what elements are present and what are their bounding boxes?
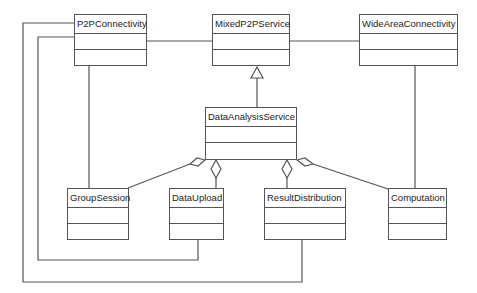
class-dataupload[interactable]: DataUpload bbox=[169, 188, 224, 240]
class-mixedp2pservice[interactable]: MixedP2PService bbox=[212, 14, 290, 66]
class-p2pconnectivity[interactable]: P2PConnectivity bbox=[74, 14, 147, 66]
class-name: GroupSession bbox=[68, 189, 128, 208]
class-name: DataUpload bbox=[170, 189, 223, 208]
aggregation-comp bbox=[313, 164, 388, 189]
class-name: P2PConnectivity bbox=[75, 15, 146, 34]
class-name: WideAreaConnectivity bbox=[360, 15, 457, 34]
operations-compartment bbox=[213, 50, 289, 64]
operations-compartment bbox=[265, 224, 345, 238]
operations-compartment bbox=[389, 224, 446, 238]
attributes-compartment bbox=[68, 208, 128, 224]
attributes-compartment bbox=[389, 208, 446, 224]
attributes-compartment bbox=[170, 208, 223, 224]
aggregation-diamond-icon bbox=[282, 160, 292, 178]
generalization-triangle-icon bbox=[251, 67, 263, 78]
class-wideareaconnectivity[interactable]: WideAreaConnectivity bbox=[359, 14, 458, 66]
attributes-compartment bbox=[206, 127, 296, 143]
aggregation-diamond-icon bbox=[297, 158, 313, 166]
class-dataanalysisservice[interactable]: DataAnalysisService bbox=[205, 107, 297, 160]
class-computation[interactable]: Computation bbox=[388, 188, 447, 240]
operations-compartment bbox=[75, 50, 146, 64]
operations-compartment bbox=[206, 143, 296, 157]
class-resultdistribution[interactable]: ResultDistribution bbox=[264, 188, 346, 240]
aggregation-group bbox=[128, 164, 190, 188]
attributes-compartment bbox=[360, 34, 457, 50]
attributes-compartment bbox=[265, 208, 345, 224]
attributes-compartment bbox=[75, 34, 146, 50]
class-groupsession[interactable]: GroupSession bbox=[67, 188, 129, 240]
class-name: ResultDistribution bbox=[265, 189, 345, 208]
operations-compartment bbox=[68, 224, 128, 238]
class-name: Computation bbox=[389, 189, 446, 208]
class-name: DataAnalysisService bbox=[206, 108, 296, 127]
class-name: MixedP2PService bbox=[213, 15, 289, 34]
attributes-compartment bbox=[213, 34, 289, 50]
operations-compartment bbox=[170, 224, 223, 238]
aggregation-diamond-icon bbox=[211, 160, 221, 178]
uml-class-diagram: P2PConnectivity MixedP2PService WideArea… bbox=[0, 0, 477, 293]
aggregation-diamond-icon bbox=[190, 158, 205, 166]
operations-compartment bbox=[360, 50, 457, 64]
